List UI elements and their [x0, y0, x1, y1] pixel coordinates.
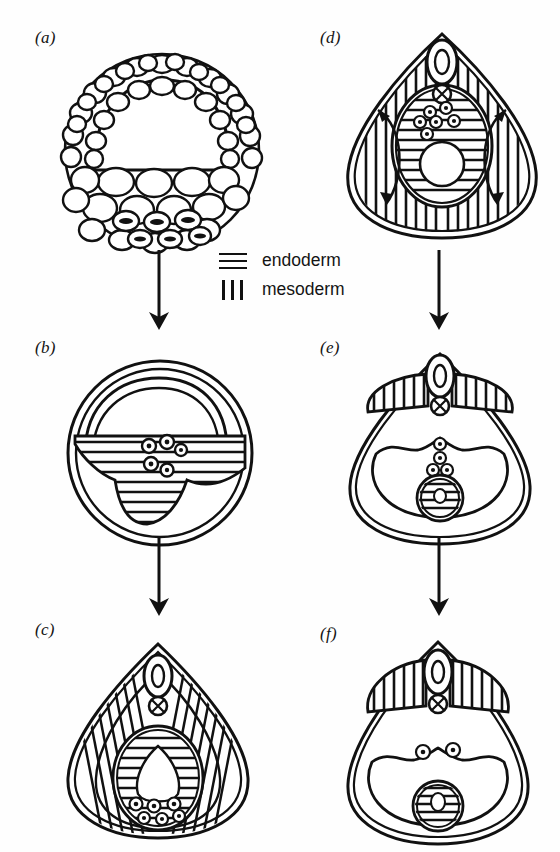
panel-d: (d): [280, 0, 560, 250]
panel-f: (f): [280, 620, 560, 852]
panel-a-label: (a): [35, 28, 56, 48]
endoderm-pattern-icon: [218, 251, 248, 271]
legend-label-mesoderm: mesoderm: [262, 279, 345, 300]
germ-cells-a: [113, 210, 211, 248]
panel-a: (a): [0, 0, 280, 250]
germ-cells-c: [130, 798, 186, 826]
figure-canvas: (a): [0, 0, 560, 852]
notochord-d: [433, 85, 451, 103]
legend-label-endoderm: endoderm: [262, 250, 341, 271]
panel-b: (b): [0, 340, 280, 540]
mesoderm-pattern-icon: [218, 280, 248, 300]
legend-item-endoderm: endoderm: [218, 246, 345, 275]
panel-c: (c): [0, 620, 280, 852]
panel-e-label: (e): [320, 338, 340, 358]
panel-e: (e): [280, 340, 560, 540]
arrow-d-to-e: [424, 250, 454, 332]
panel-b-label: (b): [35, 338, 56, 358]
panel-a-drawing: [52, 46, 272, 256]
panel-f-drawing: [338, 638, 538, 850]
panel-e-drawing: [340, 348, 540, 548]
panel-f-label: (f): [320, 624, 337, 644]
notochord-f: [429, 695, 447, 713]
notochord-c: [149, 697, 167, 715]
panel-c-label: (c): [35, 620, 55, 640]
legend-item-mesoderm: mesoderm: [218, 275, 345, 304]
panel-c-drawing: [58, 638, 258, 848]
notochord-e: [431, 397, 449, 415]
panel-d-drawing: [338, 26, 548, 241]
arrow-b-to-c: [144, 536, 174, 618]
arrow-a-to-b: [144, 250, 174, 332]
arrow-e-to-f: [424, 536, 454, 618]
legend: endoderm mesoderm: [218, 246, 345, 304]
panel-b-drawing: [55, 358, 265, 548]
